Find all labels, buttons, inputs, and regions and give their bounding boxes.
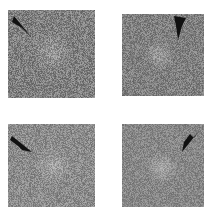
micrograph-panel-b bbox=[122, 14, 204, 96]
micrograph-panel-a bbox=[8, 10, 95, 98]
micrograph-panel-c bbox=[8, 124, 95, 207]
micrograph-panel-d bbox=[122, 124, 204, 207]
arrowhead-icon bbox=[122, 14, 204, 96]
arrowhead-icon bbox=[8, 10, 95, 98]
arrowhead-icon bbox=[8, 124, 95, 207]
arrowhead-icon bbox=[122, 124, 204, 207]
